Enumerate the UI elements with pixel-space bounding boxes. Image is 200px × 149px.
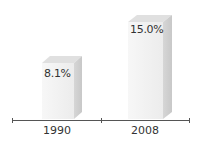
bar-chart: 8.1% 15.0% 1990 2008 xyxy=(0,0,200,149)
value-label-1990: 8.1% xyxy=(44,67,71,80)
bar-2008-front xyxy=(128,22,163,119)
value-label-2008: 15.0% xyxy=(130,23,163,36)
category-label-1990: 1990 xyxy=(27,124,87,137)
category-label-2008: 2008 xyxy=(115,124,175,137)
bar-1990-side xyxy=(74,56,82,119)
bar-1990 xyxy=(42,56,82,119)
bar-2008-side xyxy=(163,15,172,119)
